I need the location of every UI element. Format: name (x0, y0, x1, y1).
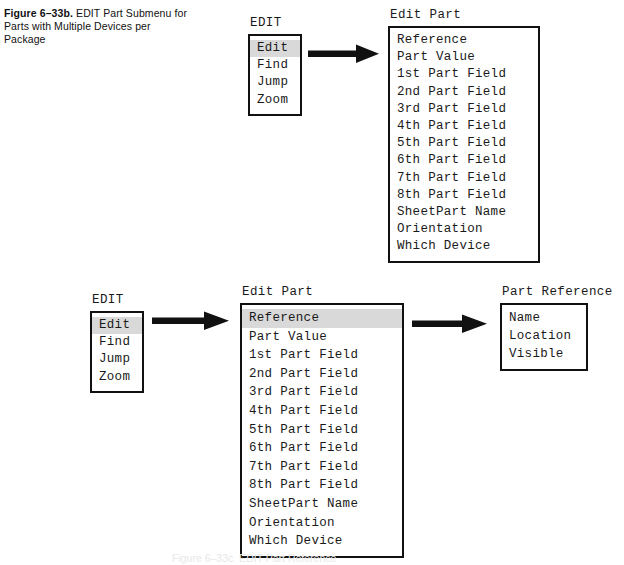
menu-item-3rd-part-field[interactable]: 3rd Part Field (242, 383, 402, 402)
edit-part-menu-bottom-title: Edit Part (240, 285, 404, 300)
menu-item-part-value[interactable]: Part Value (242, 328, 402, 347)
arrow-right-icon-bottom-right (412, 313, 488, 339)
menu-item-6th-part-field[interactable]: 6th Part Field (390, 152, 538, 169)
menu-item-visible[interactable]: Visible (502, 345, 586, 363)
menu-item-4th-part-field[interactable]: 4th Part Field (242, 402, 402, 421)
menu-item-2nd-part-field[interactable]: 2nd Part Field (390, 84, 538, 101)
menu-item-8th-part-field[interactable]: 8th Part Field (390, 187, 538, 204)
edit-part-menu-top-title: Edit Part (388, 8, 540, 23)
menu-item-jump[interactable]: Jump (92, 351, 142, 368)
edit-menu-top-box: Edit Find Jump Zoom (248, 34, 302, 116)
menu-item-8th-part-field[interactable]: 8th Part Field (242, 476, 402, 495)
menu-item-which-device[interactable]: Which Device (390, 238, 538, 255)
menu-item-orientation[interactable]: Orientation (390, 221, 538, 238)
bottom-caption-cutoff: Figure 6–33c. EDIT Part Reference (172, 552, 472, 565)
menu-item-edit[interactable]: Edit (92, 317, 142, 334)
menu-item-4th-part-field[interactable]: 4th Part Field (390, 118, 538, 135)
menu-item-orientation[interactable]: Orientation (242, 514, 402, 533)
menu-item-sheetpart-name[interactable]: SheetPart Name (242, 495, 402, 514)
part-reference-menu-title: Part Reference (500, 285, 613, 300)
menu-item-location[interactable]: Location (502, 327, 586, 345)
menu-item-zoom[interactable]: Zoom (250, 92, 300, 109)
part-reference-menu: Part Reference Name Location Visible (500, 285, 613, 371)
arrow-right-icon-bottom-left (152, 310, 230, 336)
menu-item-2nd-part-field[interactable]: 2nd Part Field (242, 365, 402, 384)
arrow-right-icon-top (308, 43, 380, 69)
edit-part-menu-bottom: Edit Part Reference Part Value 1st Part … (240, 285, 404, 558)
menu-item-edit[interactable]: Edit (250, 40, 300, 57)
edit-menu-bottom-box: Edit Find Jump Zoom (90, 311, 144, 393)
menu-item-zoom[interactable]: Zoom (92, 369, 142, 386)
figure-caption: Figure 6–33b. EDIT Part Submenu for Part… (4, 7, 194, 47)
menu-item-7th-part-field[interactable]: 7th Part Field (390, 170, 538, 187)
menu-item-1st-part-field[interactable]: 1st Part Field (390, 66, 538, 83)
menu-item-5th-part-field[interactable]: 5th Part Field (242, 421, 402, 440)
menu-item-6th-part-field[interactable]: 6th Part Field (242, 439, 402, 458)
menu-item-7th-part-field[interactable]: 7th Part Field (242, 458, 402, 477)
edit-menu-bottom: EDIT Edit Find Jump Zoom (90, 293, 144, 393)
menu-item-jump[interactable]: Jump (250, 74, 300, 91)
menu-item-5th-part-field[interactable]: 5th Part Field (390, 135, 538, 152)
edit-menu-bottom-title: EDIT (90, 293, 144, 308)
menu-item-part-value[interactable]: Part Value (390, 49, 538, 66)
figure-caption-label: Figure 6–33b. (4, 7, 73, 19)
menu-item-find[interactable]: Find (250, 57, 300, 74)
part-reference-menu-box: Name Location Visible (500, 303, 588, 371)
menu-item-reference[interactable]: Reference (242, 309, 402, 328)
edit-part-menu-top-box: Reference Part Value 1st Part Field 2nd … (388, 26, 540, 263)
menu-item-1st-part-field[interactable]: 1st Part Field (242, 346, 402, 365)
menu-item-find[interactable]: Find (92, 334, 142, 351)
menu-item-reference[interactable]: Reference (390, 32, 538, 49)
menu-item-which-device[interactable]: Which Device (242, 532, 402, 551)
menu-item-3rd-part-field[interactable]: 3rd Part Field (390, 101, 538, 118)
edit-part-menu-bottom-box: Reference Part Value 1st Part Field 2nd … (240, 303, 404, 558)
menu-item-name[interactable]: Name (502, 309, 586, 327)
edit-menu-top: EDIT Edit Find Jump Zoom (248, 16, 302, 116)
menu-item-sheetpart-name[interactable]: SheetPart Name (390, 204, 538, 221)
edit-menu-top-title: EDIT (248, 16, 302, 31)
edit-part-menu-top: Edit Part Reference Part Value 1st Part … (388, 8, 540, 263)
